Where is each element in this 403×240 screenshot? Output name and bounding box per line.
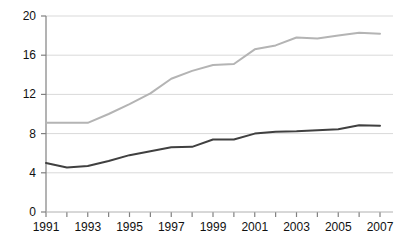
x-tick-label-2007: 2007 [358,221,402,233]
x-tick-label-1991: 1991 [24,221,68,233]
y-tick-label-16: 16 [8,49,36,61]
y-tick-label-12: 12 [8,88,36,100]
y-tick-label-4: 4 [8,167,36,179]
y-axis-tick-group [41,16,46,212]
x-axis-tick-group [46,212,380,217]
y-tick-label-0: 0 [8,206,36,218]
x-tick-label-1993: 1993 [66,221,110,233]
data-series-group [46,33,380,168]
x-tick-label-2003: 2003 [275,221,319,233]
x-tick-label-1995: 1995 [108,221,152,233]
series-line-lower-series [46,125,380,167]
x-tick-label-1997: 1997 [149,221,193,233]
chart-plot-area [0,0,403,240]
x-tick-label-1999: 1999 [191,221,235,233]
y-tick-label-8: 8 [8,128,36,140]
gridline-group [46,16,393,173]
x-tick-label-2001: 2001 [233,221,277,233]
x-tick-label-2005: 2005 [316,221,360,233]
y-tick-label-20: 20 [8,10,36,22]
line-chart: 048121620 199119931995199719992001200320… [0,0,403,240]
series-line-upper-series [46,33,380,123]
